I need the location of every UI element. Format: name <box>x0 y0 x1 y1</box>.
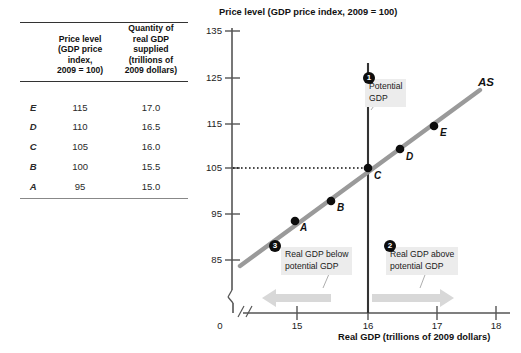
y-tick-label-125: 125 <box>200 72 222 83</box>
y-axis-break-icon <box>228 290 233 303</box>
y-tick-label-85: 85 <box>200 254 222 265</box>
badge-2-icon: 2 <box>384 240 396 252</box>
figure-root: Price level (GDP price index, 2009 = 100… <box>0 0 521 353</box>
callout-potential-line-2: GDP <box>369 93 388 103</box>
x-axis-break-icon <box>238 306 252 317</box>
chart-svg <box>0 0 521 353</box>
point-label-c: C <box>374 170 381 181</box>
y-tick-label-115: 115 <box>200 118 222 129</box>
callout-potential-line-1: Potential <box>369 81 402 91</box>
x-tick-label-0: 0 <box>212 320 228 331</box>
data-point-e <box>430 122 439 131</box>
callout-below-line-2: potential GDP <box>285 261 339 271</box>
point-label-e: E <box>440 127 447 138</box>
y-tick-label-105: 105 <box>200 162 222 173</box>
data-point-c <box>364 164 373 173</box>
callout-above-line-2: potential GDP <box>390 261 444 271</box>
as-curve-chart: Price level (GDP price index, 2009 = 100… <box>0 0 521 353</box>
y-tick-label-135: 135 <box>200 25 222 36</box>
x-tick-label-18: 18 <box>488 320 504 331</box>
data-point-b <box>327 197 336 206</box>
callout-above-line-1: Real GDP above <box>390 249 454 259</box>
point-label-b: B <box>337 202 344 213</box>
above-potential-arrow <box>372 289 454 307</box>
badge-3-icon: 3 <box>269 240 281 252</box>
as-curve-label: AS <box>478 76 494 88</box>
x-tick-label-16: 16 <box>360 320 376 331</box>
x-tick-label-17: 17 <box>429 320 445 331</box>
data-point-a <box>291 217 300 226</box>
point-label-d: D <box>406 151 413 162</box>
x-tick-label-15: 15 <box>289 320 305 331</box>
below-potential-arrow <box>262 289 331 307</box>
callout-below-potential: Real GDP below potential GDP <box>281 247 352 275</box>
point-label-a: A <box>300 222 307 233</box>
callout-below-line-1: Real GDP below <box>285 249 348 259</box>
badge-1-icon: 1 <box>363 72 375 84</box>
y-tick-label-95: 95 <box>200 208 222 219</box>
data-point-d <box>396 145 405 154</box>
callout-above-potential: Real GDP above potential GDP <box>386 247 458 275</box>
